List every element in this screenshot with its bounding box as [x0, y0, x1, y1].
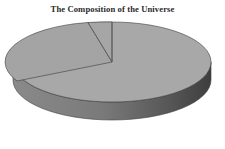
pie-chart	[0, 0, 225, 149]
